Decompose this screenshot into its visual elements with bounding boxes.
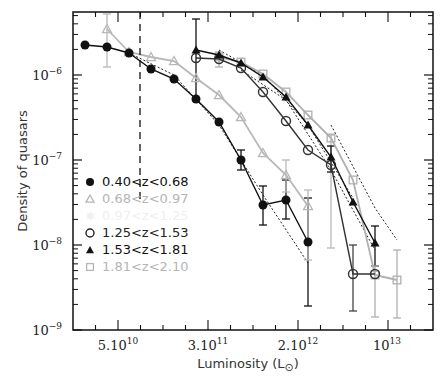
- open-circle-marker-icon: [86, 229, 94, 237]
- filled-circle-marker-icon: [147, 65, 156, 74]
- quasar-density-chart: 10−610−710−810−9 5.10103.10112.10121013 …: [0, 0, 444, 385]
- legend-label: 1.53<z<1.81: [102, 242, 189, 257]
- x-tick-label: 3.1011: [188, 336, 228, 353]
- filled-triangle-marker-icon: [371, 239, 380, 247]
- legend-label: 0.97<z<1.25: [102, 208, 189, 223]
- legend-label: 0.68<z<0.97: [102, 191, 189, 206]
- y-tick-label: 10−8: [32, 236, 62, 253]
- open-triangle-marker-icon: [86, 195, 94, 202]
- star-marker-icon: ✱: [85, 210, 94, 223]
- filled-circle-marker-icon: [304, 238, 313, 247]
- plot-frame: [73, 12, 433, 330]
- filled-circle-marker-icon: [215, 118, 224, 127]
- filled-triangle-marker-icon: [86, 246, 94, 253]
- filled-circle-marker-icon: [125, 49, 134, 58]
- filled-triangle-marker-icon: [192, 46, 201, 54]
- legend-label: 0.40<z<0.68: [102, 174, 189, 189]
- filled-circle-marker-icon: [103, 43, 112, 52]
- y-axis-title: Density of quasars: [15, 110, 30, 232]
- open-square-marker-icon: [87, 264, 94, 271]
- filled-circle-marker-icon: [192, 95, 201, 104]
- filled-circle-marker-icon: [282, 196, 291, 205]
- y-tick-label: 10−9: [32, 321, 62, 338]
- legend-label: 1.25<z<1.53: [102, 225, 189, 240]
- x-tick-label: 1013: [373, 336, 401, 353]
- filled-circle-marker-icon: [170, 75, 179, 84]
- y-tick-label: 10−6: [32, 66, 62, 83]
- filled-circle-marker-icon: [86, 178, 94, 186]
- legend-label: 1.81<z<2.10: [102, 259, 189, 274]
- filled-circle-marker-icon: [237, 156, 246, 165]
- legend: 0.40<z<0.680.68<z<0.97✱0.97<z<1.251.25<z…: [85, 174, 188, 274]
- x-axis-title: Luminosity (L⊙): [197, 356, 299, 374]
- x-tick-label: 5.1010: [98, 336, 139, 353]
- y-tick-label: 10−7: [32, 151, 62, 168]
- filled-circle-marker-icon: [259, 201, 268, 210]
- filled-circle-marker-icon: [81, 41, 90, 50]
- x-tick-label: 2.1012: [278, 336, 318, 353]
- filled-triangle-marker-icon: [349, 198, 358, 206]
